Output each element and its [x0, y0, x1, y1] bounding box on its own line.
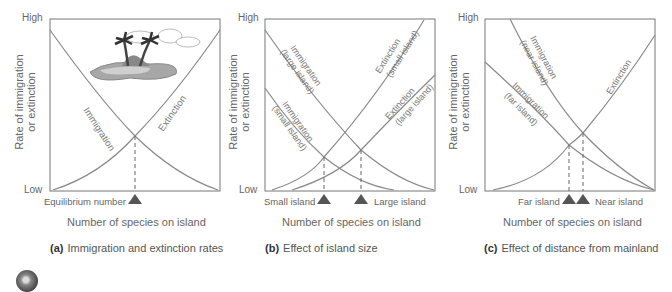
- small-island-marker: [317, 194, 331, 204]
- y-low-label: Low: [239, 184, 257, 195]
- near-island-marker: [576, 194, 590, 204]
- equilibrium-label: Equilibrium number: [44, 196, 126, 207]
- extinction-label: Extinction: [156, 93, 189, 133]
- extinction-curve: [53, 30, 220, 190]
- extinction-label: Extinction: [604, 58, 633, 96]
- immigration-curve: [50, 30, 218, 190]
- large-island-label: Large island: [374, 196, 426, 207]
- y-high-label: High: [22, 12, 43, 23]
- panel-b: Immigration (large island) Immigration (…: [224, 0, 448, 260]
- large-island-marker: [354, 194, 368, 204]
- panel-caption: (b)Effect of island size: [265, 242, 378, 254]
- panel-c: Immigration (near island) Immigration (f…: [448, 0, 672, 260]
- far-island-marker: [562, 194, 576, 204]
- small-island-label: Small island: [264, 196, 315, 207]
- y-low-label: Low: [24, 184, 42, 195]
- extinction-curve: [493, 35, 655, 190]
- far-island-label: Far island: [518, 196, 560, 207]
- x-axis-label: Number of species on island: [282, 216, 421, 228]
- immigration-label: Immigration: [81, 105, 117, 153]
- x-axis-label: Number of species on island: [67, 216, 206, 228]
- panel-caption: (c)Effect of distance from mainland: [484, 242, 658, 254]
- y-low-label: Low: [459, 184, 477, 195]
- y-high-label: High: [238, 12, 259, 23]
- cd-icon: [16, 270, 38, 292]
- immigration-far-curve: [485, 62, 654, 190]
- panel-caption: (a)Immigration and extinction rates: [50, 242, 223, 254]
- y-axis-label: Rate of immigration or extinction: [13, 47, 37, 157]
- equilibrium-marker: [128, 194, 142, 204]
- near-island-label: Near island: [595, 196, 643, 207]
- y-high-label: High: [458, 12, 479, 23]
- x-axis-label: Number of species on island: [503, 216, 642, 228]
- y-axis-label: Rate of immigration or extinction: [227, 47, 251, 157]
- island-illustration: [90, 29, 200, 80]
- panel-a: Immigration Extinction High Low Rate of …: [0, 0, 224, 260]
- y-axis-label: Rate of immigration or extinction: [447, 47, 471, 157]
